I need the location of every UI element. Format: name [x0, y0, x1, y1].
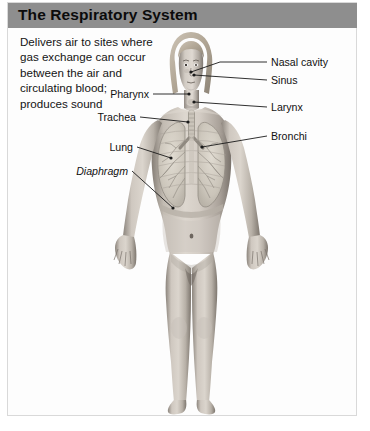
label-nasal-cavity: Nasal cavity [271, 57, 328, 68]
label-larynx: Larynx [271, 102, 303, 113]
right-foot [197, 400, 216, 414]
figure-title-band: The Respiratory System [8, 3, 357, 28]
page-title: The Respiratory System [18, 6, 198, 24]
human-body-figure [8, 28, 357, 416]
label-lung: Lung [109, 142, 133, 153]
label-diaphragm: Diaphragm [76, 166, 128, 177]
left-hand [114, 235, 136, 269]
anatomy-illustration: Nasal cavity Sinus Larynx Bronchi Pharyn… [8, 28, 357, 416]
left-foot [168, 400, 187, 414]
right-hand [247, 235, 269, 269]
label-bronchi: Bronchi [271, 131, 307, 142]
figure-card: The Respiratory System Delivers air to s… [7, 2, 357, 416]
label-sinus: Sinus [271, 75, 298, 86]
label-trachea: Trachea [98, 112, 136, 123]
label-pharynx: Pharynx [110, 89, 149, 100]
